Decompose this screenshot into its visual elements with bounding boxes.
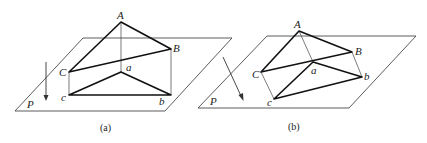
panel-b: A B C a b c P (b): [198, 18, 416, 133]
label-a-a: a: [126, 61, 132, 73]
projection-arrow-b: [223, 57, 241, 96]
triangle-abc-a: [69, 72, 171, 95]
caption-a: (a): [100, 122, 111, 134]
caption-b: (b): [288, 121, 300, 133]
label-B-b: B: [355, 45, 362, 57]
label-B-a: B: [173, 42, 180, 54]
label-b-b: b: [364, 70, 370, 82]
plane-label-a: P: [26, 98, 34, 110]
triangle-abc-b: [274, 62, 362, 99]
arrow-head-a: [44, 95, 49, 101]
label-a-b: a: [311, 64, 317, 76]
label-b-a: b: [159, 95, 165, 107]
projector-Cc: [261, 72, 274, 99]
label-A-a: A: [116, 9, 124, 21]
arrow-head-b: [239, 93, 244, 101]
label-C-a: C: [59, 66, 67, 78]
panel-a: A B C a c b P (a): [15, 9, 232, 134]
plane-p-b: [198, 36, 416, 108]
label-c-b: c: [267, 96, 272, 108]
projection-diagram: A B C a c b P (a) A B C a b c P (b): [0, 0, 427, 143]
plane-label-b: P: [209, 95, 217, 107]
triangle-ABC-a: [69, 22, 171, 72]
label-A-b: A: [293, 18, 301, 30]
label-C-b: C: [252, 68, 260, 80]
triangle-ABC-b: [261, 31, 352, 72]
plane-p-a: [15, 38, 232, 111]
label-c-a: c: [61, 91, 66, 103]
